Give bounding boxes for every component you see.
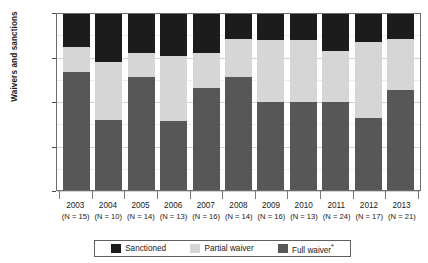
x-axis-label-year: 2009 xyxy=(262,201,280,210)
bar-column xyxy=(257,14,284,190)
bar-column xyxy=(322,14,349,190)
bar-segment-sanctioned xyxy=(290,14,317,40)
legend-swatch-sanctioned xyxy=(111,244,121,253)
bar-segment-partial xyxy=(225,39,252,78)
x-axis-label-sample-size: (N = 15) xyxy=(62,211,89,222)
x-axis-label: 2011(N = 24) xyxy=(323,200,350,222)
chart-legend: SanctionedPartial waiverFull waiver* xyxy=(94,240,351,257)
x-axis-label-year: 2010 xyxy=(295,201,313,210)
bar-segment-partial xyxy=(63,47,90,72)
x-axis-label: 2004(N = 10) xyxy=(94,200,121,222)
bar-column xyxy=(95,14,122,190)
bar-segment-full xyxy=(95,120,122,190)
bar-segment-sanctioned xyxy=(355,14,382,42)
bar-column xyxy=(63,14,90,190)
x-axis-tick-mark xyxy=(157,191,158,199)
legend-label: Sanctioned xyxy=(125,244,166,253)
x-axis-label: 2003(N = 15) xyxy=(62,200,89,222)
x-axis-label: 2010(N = 13) xyxy=(290,200,317,222)
x-axis-label-year: 2012 xyxy=(360,201,378,210)
plot-area xyxy=(56,13,421,191)
x-axis-tick-mark xyxy=(320,191,321,199)
bar-segment-sanctioned xyxy=(95,14,122,62)
bar-column xyxy=(160,14,187,190)
bar-segment-sanctioned xyxy=(387,14,414,39)
bar-segment-full xyxy=(225,77,252,190)
bar-segment-partial xyxy=(160,56,187,121)
bar-segment-sanctioned xyxy=(322,14,349,51)
x-axis-label: 2008(N = 14) xyxy=(225,200,252,222)
bar-column xyxy=(355,14,382,190)
x-axis-label-year: 2006 xyxy=(164,201,182,210)
x-axis-label-year: 2008 xyxy=(229,201,247,210)
bar-column xyxy=(290,14,317,190)
x-axis-label-sample-size: (N = 16) xyxy=(192,211,219,222)
x-axis-label-sample-size: (N = 24) xyxy=(323,211,350,222)
bar-segment-partial xyxy=(387,39,414,90)
bar-segment-partial xyxy=(355,42,382,118)
x-axis-tick-mark xyxy=(59,191,60,199)
x-axis-label-year: 2004 xyxy=(99,201,117,210)
bar-segment-full xyxy=(290,102,317,190)
x-axis-label-sample-size: (N = 10) xyxy=(94,211,121,222)
bar-segment-sanctioned xyxy=(257,14,284,40)
bar-segment-sanctioned xyxy=(160,14,187,56)
legend-footnote-marker: * xyxy=(331,243,334,250)
x-axis-tick-mark xyxy=(385,191,386,199)
x-axis-label-year: 2003 xyxy=(66,201,84,210)
x-axis-tick-mark xyxy=(124,191,125,199)
y-axis-title: Waivers and sanctions xyxy=(10,0,19,127)
bar-segment-sanctioned xyxy=(193,14,220,53)
bar-segment-full xyxy=(257,102,284,190)
bar-column xyxy=(128,14,155,190)
x-axis-label: 2007(N = 16) xyxy=(192,200,219,222)
bar-segment-partial xyxy=(95,62,122,120)
bar-segment-sanctioned xyxy=(128,14,155,53)
x-axis-label-sample-size: (N = 21) xyxy=(388,211,415,222)
bar-segment-full xyxy=(128,77,155,190)
x-axis-label-sample-size: (N = 14) xyxy=(225,211,252,222)
x-axis-tick-mark xyxy=(418,191,419,199)
x-axis-tick-mark xyxy=(287,191,288,199)
legend-label: Full waiver* xyxy=(292,243,334,255)
legend-item: Full waiver* xyxy=(278,243,334,255)
x-axis-label-sample-size: (N = 17) xyxy=(355,211,382,222)
bar-segment-partial xyxy=(193,53,220,88)
x-axis-tick-mark xyxy=(222,191,223,199)
x-axis-label-year: 2013 xyxy=(392,201,410,210)
bar-segment-sanctioned xyxy=(63,14,90,47)
bar-segment-partial xyxy=(290,40,317,102)
bar-segment-full xyxy=(322,102,349,190)
x-axis-label-sample-size: (N = 13) xyxy=(290,211,317,222)
bar-segment-full xyxy=(193,88,220,190)
bar-column xyxy=(193,14,220,190)
bar-column xyxy=(225,14,252,190)
x-axis-label-sample-size: (N = 16) xyxy=(258,211,285,222)
bar-segment-partial xyxy=(322,51,349,102)
x-axis-label: 2006(N = 13) xyxy=(160,200,187,222)
legend-item: Sanctioned xyxy=(111,244,166,253)
x-axis-labels: 2003(N = 15)2004(N = 10)2005(N = 14)2006… xyxy=(56,200,421,222)
bar-segment-full xyxy=(63,72,90,190)
x-axis-label-year: 2005 xyxy=(131,201,149,210)
bar-segment-full xyxy=(355,118,382,190)
bar-segment-full xyxy=(387,90,414,190)
x-axis-label-year: 2011 xyxy=(328,201,346,210)
x-axis-label-year: 2007 xyxy=(197,201,215,210)
bar-segment-partial xyxy=(257,40,284,102)
legend-swatch-full xyxy=(278,244,288,253)
x-axis-tick-mark xyxy=(190,191,191,199)
bar-segment-partial xyxy=(128,53,155,78)
legend-item: Partial waiver xyxy=(190,244,253,253)
bar-series-container xyxy=(57,14,420,190)
bar-segment-sanctioned xyxy=(225,14,252,39)
legend-label: Partial waiver xyxy=(204,244,253,253)
bar-column xyxy=(387,14,414,190)
x-axis-tick-mark xyxy=(255,191,256,199)
x-axis-label: 2005(N = 14) xyxy=(127,200,154,222)
x-axis-tick-mark xyxy=(92,191,93,199)
x-axis-label: 2012(N = 17) xyxy=(355,200,382,222)
legend-swatch-partial xyxy=(190,244,200,253)
x-axis-label: 2013(N = 21) xyxy=(388,200,415,222)
bar-segment-full xyxy=(160,121,187,190)
